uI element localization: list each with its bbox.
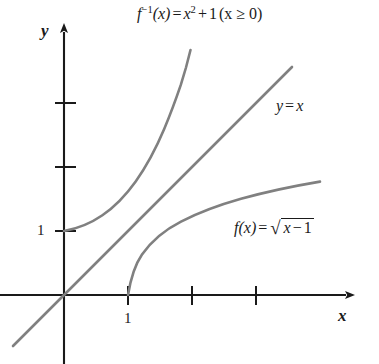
label-inverse-domain: (x ≥ 0) bbox=[217, 5, 264, 22]
curve-inverse-function bbox=[64, 50, 191, 231]
radical-expression: √x−1 bbox=[269, 218, 314, 238]
y-tick-label-1: 1 bbox=[37, 223, 45, 238]
radicand-x: x bbox=[284, 219, 291, 236]
radical-sign-icon: √ bbox=[270, 219, 280, 238]
y-axis-label: y bbox=[41, 22, 49, 39]
radicand: x−1 bbox=[281, 218, 314, 236]
label-inverse-one: 1 bbox=[209, 5, 217, 22]
curve-identity-line bbox=[13, 67, 292, 346]
radicand-minus: − bbox=[291, 219, 304, 236]
label-function: f(x)=√x−1 bbox=[234, 218, 314, 238]
label-inverse-arg: (x) bbox=[153, 5, 171, 22]
label-inverse-exponent: −1 bbox=[141, 4, 152, 15]
label-inverse-x: x bbox=[183, 5, 190, 22]
math-figure: f−1(x)=x2+1(x ≥ 0) y=x f(x)=√x−1 y x 1 1 bbox=[0, 0, 379, 364]
label-function-arg: (x) bbox=[238, 219, 256, 236]
label-function-equals: = bbox=[256, 219, 269, 236]
label-inverse-plus: + bbox=[196, 5, 209, 22]
x-tick-label-1: 1 bbox=[124, 311, 132, 326]
label-identity-equals: = bbox=[283, 97, 296, 114]
radicand-one: 1 bbox=[304, 219, 312, 236]
label-identity-x: x bbox=[296, 97, 303, 114]
graph-canvas bbox=[0, 0, 379, 364]
label-inverse-function: f−1(x)=x2+1(x ≥ 0) bbox=[137, 6, 264, 22]
label-identity-line: y=x bbox=[276, 98, 303, 114]
label-inverse-equals: = bbox=[170, 5, 183, 22]
curve-function bbox=[128, 182, 320, 295]
x-axis-label: x bbox=[338, 307, 347, 324]
